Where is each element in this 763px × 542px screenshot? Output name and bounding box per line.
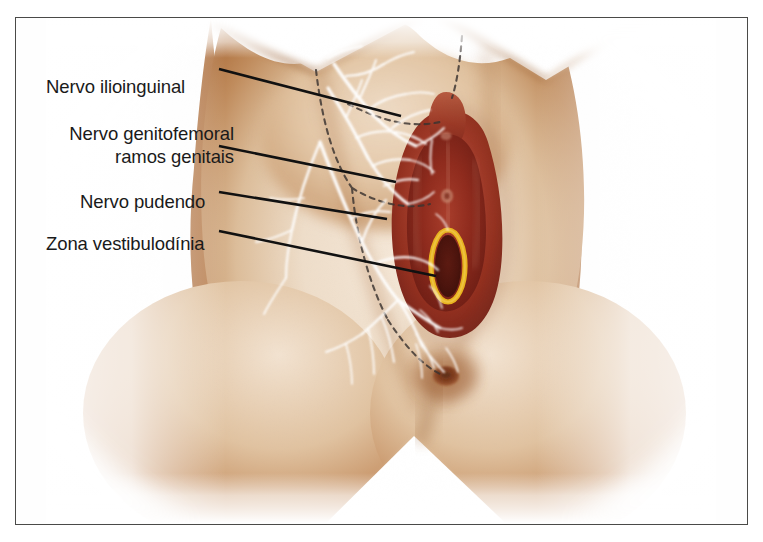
- label-nervo-ilioinguinal: Nervo ilioinguinal: [46, 75, 185, 98]
- label-nervo-pudendo: Nervo pudendo: [80, 190, 205, 213]
- figure-frame: Nervo ilioinguinal Nervo genitofemoral r…: [15, 17, 748, 525]
- label-genitofemoral-line1: Nervo genitofemoral: [69, 123, 234, 144]
- figure-root: Nervo ilioinguinal Nervo genitofemoral r…: [0, 0, 763, 542]
- label-genitofemoral-line2: ramos genitais: [115, 146, 234, 167]
- label-nervo-genitofemoral: Nervo genitofemoral ramos genitais: [16, 122, 234, 168]
- label-zona-vestibulodinia: Zona vestibulodínia: [46, 232, 205, 255]
